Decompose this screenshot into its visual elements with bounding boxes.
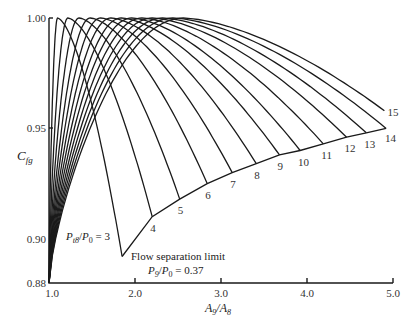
curve-label: 9	[278, 160, 284, 172]
x-tick-label: 4.0	[300, 287, 314, 299]
curve-group	[49, 18, 386, 283]
y-tick-label: 1.00	[27, 12, 47, 24]
y-axis-label: Cfg	[17, 148, 33, 165]
separation-limit-sublabel: P9/P0 = 0.37	[147, 264, 204, 279]
x-tick-label: 3.0	[214, 287, 228, 299]
curve-label: 11	[321, 149, 332, 161]
y-tick-label: 0.90	[27, 233, 47, 245]
nozzle-thrust-coefficient-chart: 456789101112131415 1.00 0.95 0.90 0.88 1…	[0, 0, 416, 322]
curve-label: 14	[385, 132, 397, 144]
curve-label: 12	[345, 142, 356, 154]
curve-pressure-ratio-14	[49, 18, 386, 283]
curve-label: 10	[298, 156, 310, 168]
curve-label: 5	[178, 204, 184, 216]
pressure-ratio-annotation: Pt8/P0 = 3	[65, 230, 110, 245]
curve-label: 8	[254, 169, 260, 181]
x-tick-label: 1.0	[45, 287, 59, 299]
curve-label: 15	[387, 106, 399, 118]
y-tick-label: 0.88	[27, 277, 47, 289]
x-axis-label: A9/A8	[204, 301, 231, 317]
x-tick-label: 2.0	[128, 287, 142, 299]
curve-label: 6	[205, 189, 211, 201]
curve-label: 13	[364, 138, 376, 150]
separation-limit-label: Flow separation limit	[131, 250, 225, 262]
axes	[49, 18, 393, 283]
y-tick-label: 0.95	[27, 122, 47, 134]
curve-pressure-ratio-8	[49, 18, 256, 283]
curve-pressure-ratio-9	[49, 18, 280, 283]
curve-label: 7	[230, 178, 236, 190]
x-tick-label: 5.0	[386, 287, 400, 299]
curve-labels: 456789101112131415	[150, 106, 399, 234]
curve-label: 4	[150, 222, 156, 234]
